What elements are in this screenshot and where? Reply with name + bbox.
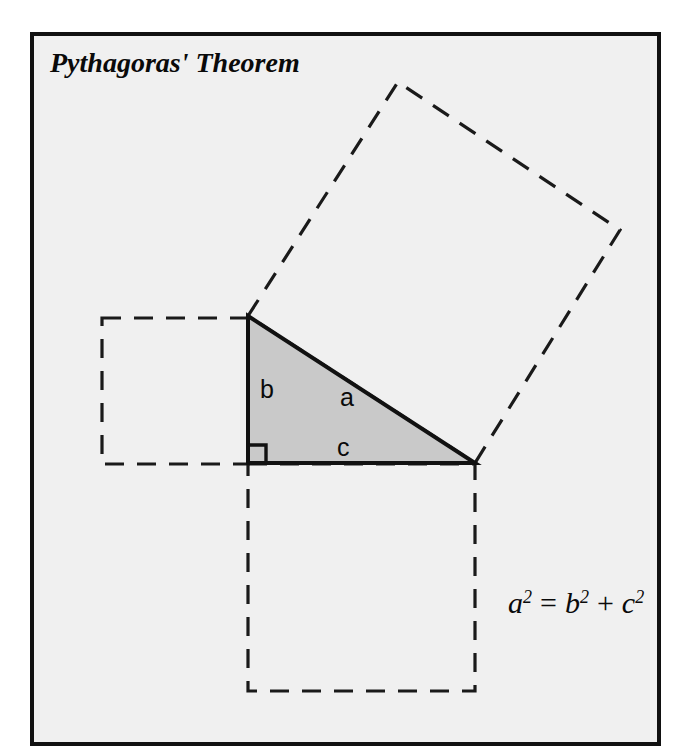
figure-canvas: Pythagoras' Theorem b a c a2=b2+c2 (0, 0, 688, 754)
formula-a-exponent: 2 (523, 587, 532, 607)
pythagoras-figure: Pythagoras' Theorem b a c a2=b2+c2 (0, 0, 688, 754)
label-leg-c: c (337, 433, 350, 461)
formula-b-exponent: 2 (580, 587, 589, 607)
formula-plus: + (597, 586, 614, 619)
formula-c: c (622, 586, 635, 619)
label-hypotenuse-a: a (340, 383, 354, 411)
label-leg-b: b (260, 375, 274, 403)
formula-b: b (565, 586, 580, 619)
figure-title: Pythagoras' Theorem (49, 47, 300, 78)
formula-a: a (508, 586, 523, 619)
formula-equals: = (540, 586, 557, 619)
formula-c-exponent: 2 (635, 587, 644, 607)
